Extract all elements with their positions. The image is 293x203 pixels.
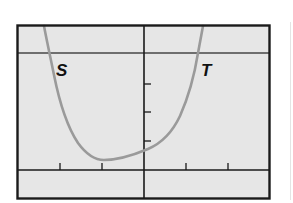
calculator-graph: [0, 0, 293, 203]
intersection-label-t: T: [201, 62, 211, 79]
chart-stage: S T: [0, 0, 293, 203]
page-edge-divider: [290, 22, 291, 200]
intersection-label-s: S: [56, 62, 67, 79]
